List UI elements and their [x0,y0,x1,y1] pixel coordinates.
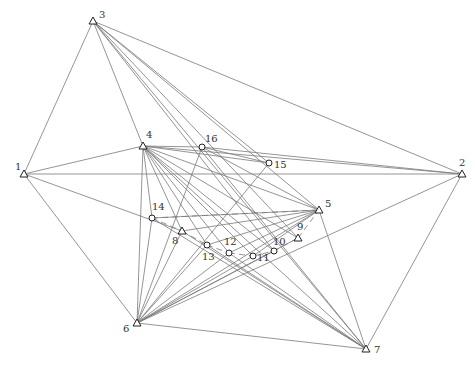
edge-5-7 [319,210,366,349]
circle-marker-icon [204,242,210,248]
edge-1-6 [24,174,137,323]
edge-2-4 [143,146,462,174]
node-12: 12 [224,236,237,256]
node-label: 2 [459,157,465,168]
edge-4-6 [137,146,143,323]
circle-marker-icon [271,248,277,254]
edge-4-7 [143,146,366,349]
node-label: 3 [99,9,105,20]
edge-3-15 [93,21,269,163]
network-diagram: 12345678910111213141516 [0,0,475,370]
triangle-marker-icon [315,206,323,213]
edge-4-5 [143,146,319,210]
node-3: 3 [89,9,105,24]
triangle-marker-icon [139,142,147,149]
circle-marker-icon [250,253,256,259]
circle-marker-icon [266,160,272,166]
circle-marker-icon [199,144,205,150]
node-label: 8 [172,235,178,246]
circle-marker-icon [149,215,155,221]
node-label: 6 [123,323,129,334]
edge-3-9 [93,21,298,238]
node-label: 11 [257,252,270,263]
edge-6-12 [137,253,229,323]
node-label: 13 [202,251,215,262]
edge-2-16 [202,147,462,174]
edge-3-7 [93,21,366,349]
circle-marker-icon [226,250,232,256]
node-2: 2 [458,157,466,177]
node-label: 9 [297,221,303,232]
edges-layer [24,21,462,349]
triangle-marker-icon [89,17,97,24]
node-label: 14 [152,201,165,212]
node-5: 5 [315,198,331,213]
node-label: 5 [325,198,331,209]
edge-3-5 [93,21,319,210]
edge-3-4 [93,21,143,146]
edge-4-10 [143,146,274,251]
node-label: 10 [273,236,286,247]
edge-4-15 [143,146,269,163]
edge-7-14 [152,218,366,349]
node-label: 15 [274,159,287,170]
node-label: 16 [205,133,218,144]
edge-7-16 [202,147,366,349]
edge-6-13 [137,245,207,323]
node-6: 6 [123,319,141,334]
node-10: 10 [271,236,286,254]
edge-6-11 [137,256,253,323]
node-13: 13 [202,242,215,262]
edge-1-4 [24,146,143,174]
edge-1-3 [24,21,93,174]
node-label: 4 [146,129,152,140]
node-label: 7 [374,344,380,355]
edge-2-6 [137,174,462,323]
edge-4-14 [143,146,152,218]
node-label: 1 [15,161,21,172]
node-9: 9 [294,221,303,241]
nodes-layer: 12345678910111213141516 [15,9,466,355]
edge-2-7 [366,174,462,349]
edge-7-12 [229,253,366,349]
node-label: 12 [224,236,237,247]
